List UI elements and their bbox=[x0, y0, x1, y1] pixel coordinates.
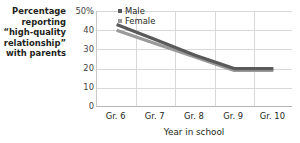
y-axis-caption-line-4: relationship” bbox=[0, 38, 66, 49]
legend-swatch-male-icon bbox=[118, 9, 122, 13]
y-axis-caption-line-1: Percentage bbox=[0, 6, 66, 17]
y-tick-label: 20 bbox=[62, 64, 94, 72]
x-axis-tick-labels: Gr. 6 Gr. 7 Gr. 8 Gr. 9 Gr. 10 bbox=[96, 112, 292, 124]
y-axis-caption: Percentage reporting “high-quality relat… bbox=[0, 6, 66, 59]
x-axis-title: Year in school bbox=[96, 127, 292, 137]
line-male bbox=[117, 24, 274, 68]
y-tick-label: 0 bbox=[62, 102, 94, 110]
x-tick-label: Gr. 8 bbox=[174, 112, 213, 121]
chart-legend: Male Female bbox=[118, 6, 155, 26]
legend-label-female: Female bbox=[125, 16, 155, 26]
legend-item-female: Female bbox=[118, 16, 155, 26]
legend-item-male: Male bbox=[118, 6, 155, 16]
y-tick-label: 30 bbox=[62, 45, 94, 53]
x-tick-label: Gr. 10 bbox=[253, 112, 292, 121]
line-female bbox=[117, 30, 274, 70]
x-tick-label: Gr. 9 bbox=[214, 112, 253, 121]
legend-label-male: Male bbox=[125, 6, 145, 16]
x-tick-label: Gr. 6 bbox=[96, 112, 135, 121]
y-tick-label: 50% bbox=[62, 7, 94, 15]
y-tick-label: 10 bbox=[62, 83, 94, 91]
y-axis-caption-line-3: “high-quality bbox=[0, 27, 66, 38]
legend-swatch-female-icon bbox=[118, 19, 122, 23]
chart-figure: Percentage reporting “high-quality relat… bbox=[0, 0, 300, 143]
y-tick-label: 40 bbox=[62, 26, 94, 34]
y-axis-tick-labels: 50% 40 30 20 10 0 bbox=[62, 0, 94, 143]
y-axis-caption-line-5: with parents bbox=[0, 48, 66, 59]
x-tick-label: Gr. 7 bbox=[135, 112, 174, 121]
y-axis-caption-line-2: reporting bbox=[0, 17, 66, 28]
